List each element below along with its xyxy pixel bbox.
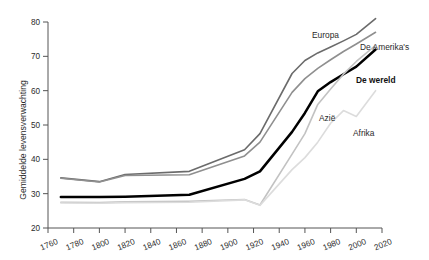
series-label-afrika: Afrika (353, 128, 375, 138)
y-tick-label: 60 (31, 87, 41, 96)
series-label-europa: Europa (312, 30, 339, 40)
y-tick-label: 70 (31, 52, 41, 61)
y-tick-label: 20 (31, 224, 41, 233)
x-tick-label: 1760 (39, 237, 60, 252)
y-tick-label: 40 (31, 155, 41, 164)
x-tick-label: 1880 (193, 237, 214, 252)
x-tick-label: 1900 (219, 237, 240, 252)
series-line-de-wereld (61, 49, 376, 197)
chart-canvas: Gemiddelde levensverwachting 20304050607… (0, 0, 429, 260)
x-tick-label: 1960 (296, 237, 317, 252)
x-tick-label: 2020 (373, 237, 394, 252)
x-tick-label: 1800 (90, 237, 111, 252)
x-tick-label: 1820 (116, 237, 137, 252)
x-axis-ticks: 1760178018001820184018601880190019201940… (39, 228, 394, 252)
x-tick-label: 1920 (244, 237, 265, 252)
x-tick-label: 1780 (65, 237, 86, 252)
series-line-afrika (61, 91, 376, 206)
y-tick-label: 30 (31, 190, 41, 199)
y-axis-title: Gemiddelde levensverwachting (18, 80, 28, 200)
x-tick-label: 1840 (142, 237, 163, 252)
series-label-de-amerika-s: De Amerika's (360, 42, 409, 52)
y-tick-label: 50 (31, 121, 41, 130)
y-tick-label: 80 (31, 18, 41, 27)
x-tick-label: 2000 (347, 237, 368, 252)
life-expectancy-chart: Gemiddelde levensverwachting 20304050607… (0, 0, 429, 260)
x-tick-label: 1860 (167, 237, 188, 252)
x-tick-label: 1980 (322, 237, 343, 252)
series-lines (61, 19, 376, 206)
series-label-azi: Azië (319, 113, 336, 123)
x-tick-label: 1940 (270, 237, 291, 252)
series-label-de-wereld: De wereld (356, 75, 396, 85)
y-axis-ticks: 20304050607080 (31, 18, 48, 233)
series-line-europa (61, 19, 376, 182)
